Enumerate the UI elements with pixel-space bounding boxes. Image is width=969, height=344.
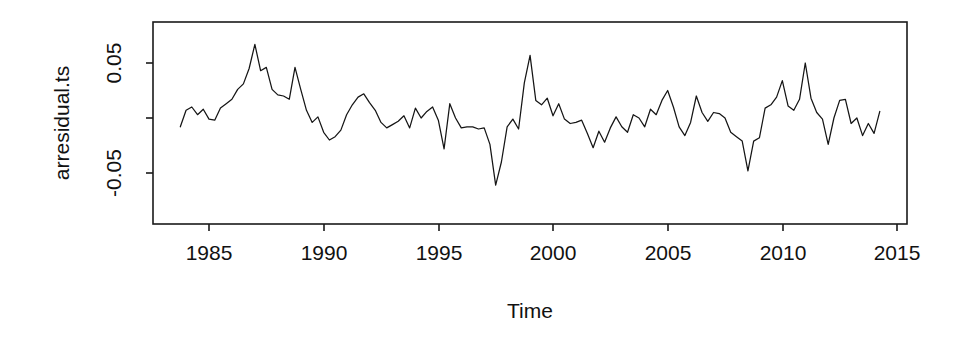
y-tick-label-lower: -0.05: [102, 149, 125, 197]
x-tick-label-2010: 2010: [760, 241, 807, 264]
x-tick-label-1985: 1985: [186, 241, 233, 264]
x-axis-label: Time: [507, 299, 553, 322]
y-axis-label: arresidual.ts: [50, 66, 73, 180]
x-tick-label-1995: 1995: [416, 241, 463, 264]
x-tick-label-1990: 1990: [301, 241, 348, 264]
plot-container: 0.05 -0.05 arresidual.ts 1985 1990 1995 …: [0, 0, 969, 344]
y-tick-label-upper: 0.05: [102, 43, 125, 84]
x-axis-tick-labels: 1985 1990 1995 2000 2005 2010 2015: [186, 241, 921, 264]
residual-series-line: [180, 44, 879, 185]
x-axis-ticks: [209, 224, 897, 231]
x-tick-label-2015: 2015: [874, 241, 921, 264]
x-tick-label-2005: 2005: [645, 241, 692, 264]
y-axis-ticks: [146, 63, 153, 173]
x-tick-label-2000: 2000: [530, 241, 577, 264]
plot-frame: [153, 22, 907, 224]
time-series-chart: 0.05 -0.05 arresidual.ts 1985 1990 1995 …: [0, 0, 969, 344]
y-axis-tick-labels: 0.05 -0.05: [102, 43, 125, 197]
